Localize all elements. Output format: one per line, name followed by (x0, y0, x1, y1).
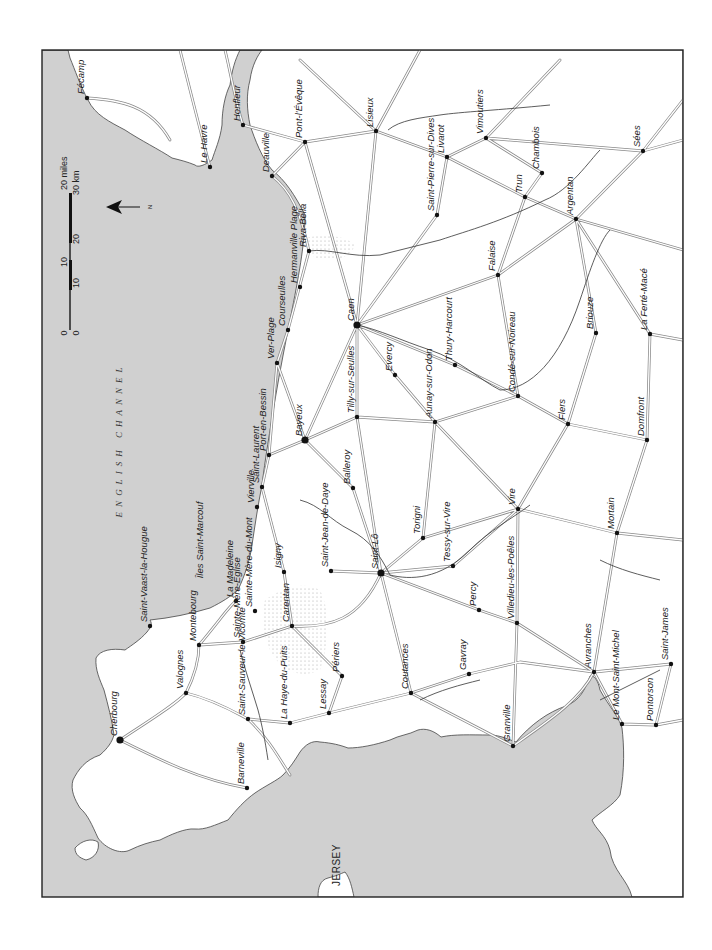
town-marker (421, 536, 425, 540)
town-label: Isigny (272, 542, 283, 568)
town-label: Lisieux (364, 96, 375, 127)
town-marker (351, 486, 355, 490)
town-marker (620, 722, 624, 726)
town-label: Livarot (435, 124, 446, 153)
iles-saint-marcouf-label: Îles Saint-Marcouf (194, 500, 205, 578)
town-label: Bayeux (293, 403, 304, 436)
town-marker (409, 691, 413, 695)
town-marker (445, 155, 449, 159)
town-label: Lessay (317, 678, 328, 709)
town-label: Percy (467, 580, 478, 606)
town-label: La Ferté-Macé (638, 268, 649, 330)
town-label: Saint-James (659, 607, 670, 660)
town-marker (484, 136, 488, 140)
town-marker (355, 415, 359, 419)
town-marker (453, 363, 457, 367)
town-marker (451, 564, 455, 568)
town-marker (327, 711, 331, 715)
sea-label: ENGLISH CHANNEL (114, 363, 124, 519)
town-marker (275, 361, 279, 365)
town-marker (641, 149, 645, 153)
town-marker (523, 195, 527, 199)
town-marker (303, 140, 307, 144)
town-marker (566, 422, 570, 426)
town-label: Balleroy (341, 448, 352, 484)
town-label: Tilly-sur-Seulles (345, 345, 356, 413)
town-label: Vierville (245, 470, 256, 503)
town-label: Hermanville Plage (288, 206, 299, 283)
town-label: Evercy (383, 341, 394, 371)
town-label: Ver-Plage (265, 317, 276, 359)
town-marker (477, 608, 481, 612)
town-label: Pont-l'Évêque (293, 79, 304, 138)
town-marker (467, 672, 471, 676)
town-marker (260, 485, 264, 489)
town-label: Saint-Vaast-la-Hougue (138, 526, 149, 622)
town-marker (288, 721, 292, 725)
town-marker (615, 531, 619, 535)
town-marker (592, 670, 596, 674)
town-marker (286, 328, 290, 332)
town-label: Tessy-sur-Vire (441, 501, 452, 562)
scale-km-label: 30 km (71, 170, 81, 195)
town-label: Mortain (605, 497, 616, 529)
town-marker (282, 570, 286, 574)
town-label: Saint-Pierre-sur-Dives (425, 117, 436, 211)
town-label: Carentan (280, 583, 291, 622)
town-label: Argentan (564, 176, 575, 216)
town-label: Fécamp (75, 60, 86, 94)
town-label: Briouze (584, 297, 595, 329)
town-marker (307, 249, 311, 253)
town-marker (594, 331, 598, 335)
town-label: Courseulles (276, 276, 287, 326)
town-label: Périers (330, 642, 341, 672)
town-label: Caen (345, 298, 356, 321)
town-marker (245, 786, 249, 790)
town-label: Flers (556, 399, 567, 420)
town-marker (511, 744, 515, 748)
town-label: Avranches (582, 623, 593, 669)
town-marker (301, 436, 308, 443)
town-label: Le Mont-Saint-Michel (610, 629, 621, 720)
town-marker (540, 171, 544, 175)
scale-mile-0: 0 (59, 330, 69, 335)
town-label: Montebourg (187, 590, 198, 641)
town-label: Pontorson (644, 678, 655, 721)
town-label: Thury-Harcourt (443, 297, 454, 361)
town-marker (298, 285, 302, 289)
town-marker (669, 662, 673, 666)
town-marker (184, 691, 188, 695)
town-marker (516, 507, 520, 511)
town-marker (516, 394, 520, 398)
town-marker (515, 621, 519, 625)
town-marker (253, 609, 257, 613)
town-label: Deauville (260, 133, 271, 172)
town-marker (374, 129, 378, 133)
town-marker (85, 96, 89, 100)
town-label: Valognes (174, 649, 185, 689)
town-label: Honfleur (231, 84, 242, 121)
town-label: Vimoutiers (474, 89, 485, 134)
town-marker (648, 332, 652, 336)
town-label: Torigni (411, 505, 422, 534)
normandy-map: FécampLe HavreHonfleurDeauvillePont-l'Év… (0, 0, 712, 950)
scale-km-10: 10 (71, 278, 81, 288)
town-label: La Haye-du-Puits (278, 645, 289, 719)
town-label: Condé-sur-Noireau (506, 311, 517, 392)
town-label: Sées (631, 125, 642, 147)
town-label: Granville (501, 705, 512, 743)
scale-km-0: 0 (71, 330, 81, 335)
town-marker (377, 569, 384, 576)
town-marker (435, 213, 439, 217)
town-marker (208, 165, 212, 169)
town-marker (148, 624, 152, 628)
town-label: Saint-Lô (369, 533, 380, 569)
town-label: Gavray (457, 638, 468, 670)
town-marker (393, 373, 397, 377)
town-label: Sainte-Mère-du-Mont (243, 517, 254, 607)
town-label: Chambois (530, 126, 541, 169)
town-label: Saint-Sauveur-le-Vicomte (236, 607, 247, 715)
town-marker (270, 174, 274, 178)
town-marker (241, 123, 245, 127)
town-marker (574, 217, 578, 221)
